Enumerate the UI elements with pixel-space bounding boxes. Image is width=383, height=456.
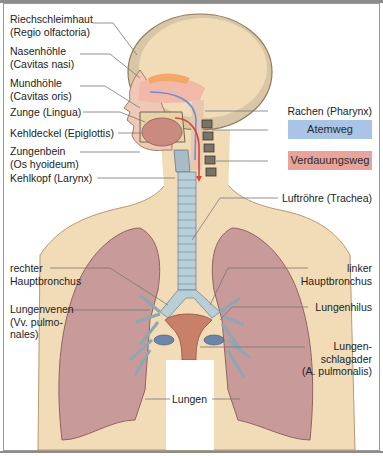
label-lungen: Lungen [172, 393, 207, 406]
legend-verdauungsweg: Verdauungsweg [288, 151, 372, 170]
label-kehldeckel: Kehldeckel (Epiglottis) [10, 127, 114, 140]
label-zungenbein: Zungenbein (Os hyoideum) [10, 145, 79, 170]
label-line: (Regio olfactoria) [10, 26, 93, 39]
label-line: Hauptbronchus [10, 275, 81, 288]
label-rechter-hauptbronchus: rechter Hauptbronchus [10, 262, 81, 287]
label-line: Zunge (Lingua) [10, 106, 81, 119]
label-luftroehre: Luftröhre (Trachea) [282, 192, 372, 205]
label-line: Kehldeckel (Epiglottis) [10, 127, 114, 140]
label-line: Lungenvenen [10, 303, 74, 316]
label-line: Hauptbronchus [301, 275, 372, 288]
label-line: (Os hyoideum) [10, 158, 79, 171]
label-line: (Cavitas nasi) [10, 58, 74, 71]
label-zunge: Zunge (Lingua) [10, 106, 81, 119]
label-line: Zungenbein [10, 145, 79, 158]
label-lungenhilus: Lungenhilus [315, 301, 372, 314]
label-line: Lungen [172, 393, 207, 406]
label-lungenschlagader: Lungen- schlagader (A. pulmonalis) [302, 340, 372, 378]
trachea [178, 172, 196, 290]
label-line: rechter [10, 262, 81, 275]
label-line: (Vv. pulmo- [10, 316, 74, 329]
label-riechschleimhaut: Riechschleimhaut (Regio olfactoria) [10, 13, 93, 38]
label-line: Rachen (Pharynx) [287, 105, 372, 118]
larynx [174, 150, 190, 172]
legend-atemweg: Atemweg [288, 120, 372, 139]
label-rachen: Rachen (Pharynx) [287, 105, 372, 118]
label-mundhoehle: Mundhöhle (Cavitas oris) [10, 77, 72, 102]
label-line: Luftröhre (Trachea) [282, 192, 372, 205]
label-linker-hauptbronchus: linker Hauptbronchus [301, 262, 372, 287]
label-lungenvenen: Lungenvenen (Vv. pulmo- nales) [10, 303, 74, 341]
label-line: Riechschleimhaut [10, 13, 93, 26]
label-line: (Cavitas oris) [10, 90, 72, 103]
label-line: nales) [10, 328, 74, 341]
label-line: schlagader [302, 353, 372, 366]
label-line: Lungen- [302, 340, 372, 353]
label-line: Mundhöhle [10, 77, 72, 90]
label-kehlkopf: Kehlkopf (Larynx) [10, 172, 92, 185]
label-line: Lungenhilus [315, 301, 372, 314]
label-line: Kehlkopf (Larynx) [10, 172, 92, 185]
label-line: Nasenhöhle [10, 45, 74, 58]
label-line: (A. pulmonalis) [302, 365, 372, 378]
tongue [142, 118, 182, 146]
label-nasenhoehle: Nasenhöhle (Cavitas nasi) [10, 45, 74, 70]
label-line: linker [301, 262, 372, 275]
